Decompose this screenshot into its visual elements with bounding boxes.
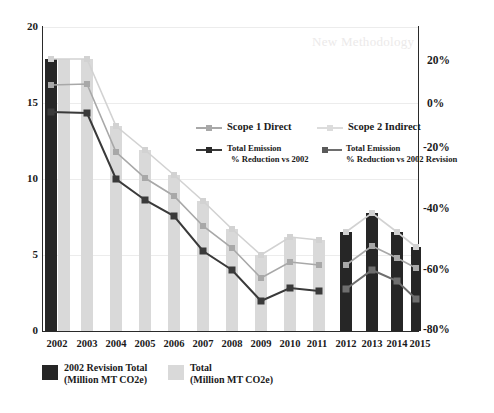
legend-reduction-2002rev-label-line2: % Reduction vs 2002 Revision — [346, 154, 457, 164]
emissions-chart: New Methodology 20 15 10 5 0 20% 0% -20%… — [0, 0, 494, 413]
legend-reduction-2002rev-label-line1: Total Emission — [346, 143, 400, 153]
legend-bar-revision-label-line2: (Million MT CO2e) — [64, 374, 147, 386]
y-axis-right-tick-neg20pct: -20% — [423, 142, 450, 153]
legend-bar-revision-label-line1: 2002 Revision Total — [64, 362, 147, 374]
legend-reduction-2002-label-line2: % Reduction vs 2002 — [231, 154, 309, 164]
y-axis-right-tick-20pct: 20% — [427, 55, 450, 66]
legend-reduction-2002-label-line1: Total Emission — [227, 143, 281, 153]
legend-bar-total-label-line2: (Million MT CO2e) — [190, 374, 273, 386]
legend-bar-revision-swatch — [42, 365, 58, 380]
y-axis-right-tick-neg60pct: -60% — [423, 264, 450, 275]
legend-scope1-label: Scope 1 Direct — [227, 121, 292, 132]
y-axis-left-tick-5: 5 — [10, 249, 38, 260]
legend-bar-total-swatch — [168, 365, 184, 380]
x-axis-tick-2015: 2015 — [399, 338, 441, 349]
y-axis-left-tick-0: 0 — [10, 325, 38, 336]
legend-bar-total-label-line1: Total — [190, 362, 212, 374]
y-axis-left-tick-10: 10 — [10, 173, 38, 184]
series-lines — [0, 0, 494, 413]
line-scope1-direct-late — [346, 246, 416, 268]
y-axis-right-tick-0pct: 0% — [427, 98, 444, 109]
legend-scope1-marker — [206, 125, 212, 131]
bottom-legend: 2002 Revision Total (Million MT CO2e) To… — [42, 362, 322, 396]
markers-reduction-vs-2002-revision — [343, 267, 420, 303]
line-reduction-vs-2002-revision — [346, 270, 416, 299]
legend-reduction-2002rev-marker — [322, 147, 328, 153]
line-scope2-indirect-late — [346, 213, 416, 247]
new-methodology-watermark: New Methodology — [312, 34, 414, 50]
markers-scope1-direct — [48, 81, 419, 281]
legend-reduction-2002-marker — [206, 147, 212, 153]
y-axis-right-tick-neg80pct: -80% — [423, 324, 450, 335]
legend-scope2-marker — [327, 125, 333, 131]
line-scope1-direct-early — [51, 84, 319, 278]
inner-legend: Scope 1 Direct Scope 2 Indirect Total Em… — [196, 118, 421, 170]
legend-scope2-label: Scope 2 Indirect — [348, 121, 421, 132]
y-axis-left-tick-15: 15 — [10, 97, 38, 108]
y-axis-left-tick-20: 20 — [10, 21, 38, 32]
y-axis-right-tick-neg40pct: -40% — [423, 203, 450, 214]
